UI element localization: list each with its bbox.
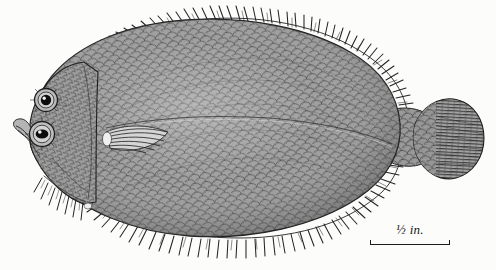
lower-eye [25, 117, 59, 151]
scale-bar-tick-right [449, 240, 450, 245]
scale-bar-line [370, 244, 450, 245]
scale-bar: ½ in. [368, 222, 452, 256]
head [13, 62, 98, 204]
caudal-fin [410, 96, 488, 186]
illustration-plate: ½ in. [0, 0, 496, 270]
scale-bar-tick-left [370, 240, 371, 245]
scale-bar-label: ½ in. [368, 222, 452, 238]
